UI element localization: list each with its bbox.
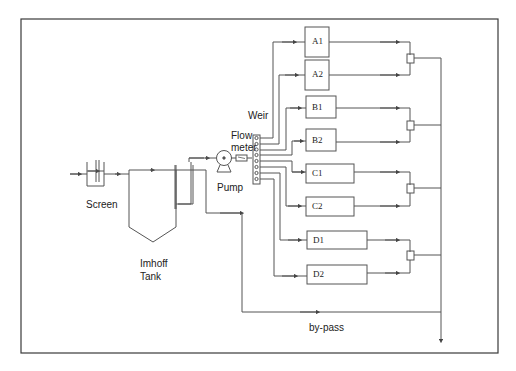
label-imhoff-1: Imhoff <box>140 258 168 270</box>
outlet-b2 <box>336 130 410 142</box>
unit-label-d1: D1 <box>313 235 324 245</box>
label-bypass: by-pass <box>309 322 344 334</box>
collector-a <box>407 54 414 63</box>
outlet-c1 <box>354 172 410 185</box>
outlet-b1 <box>336 108 410 121</box>
collector-c <box>407 184 414 193</box>
label-weir: Weir <box>248 110 268 122</box>
outlet-d2 <box>367 260 410 273</box>
outlet-a2 <box>329 63 410 75</box>
label-imhoff-2: Tank <box>140 271 161 283</box>
tank-outlet-pipe <box>176 162 191 204</box>
unit-label-a1: A1 <box>312 36 323 46</box>
collector-b <box>407 121 414 130</box>
imhoff-tank <box>129 170 176 242</box>
bypass-line <box>242 213 441 312</box>
unit-label-c2: C2 <box>312 201 323 211</box>
feed-line-a1 <box>260 42 305 138</box>
wastewater-treatment-schematic <box>0 0 516 371</box>
unit-label-a2: A2 <box>312 69 323 79</box>
outlet-a1 <box>329 42 410 55</box>
outlet-d1 <box>367 240 410 252</box>
unit-label-d2: D2 <box>313 269 324 279</box>
label-screen: Screen <box>86 199 118 211</box>
unit-label-b2: B2 <box>312 135 323 145</box>
unit-label-b1: B1 <box>312 102 323 112</box>
collector-d <box>407 251 414 260</box>
label-pump: Pump <box>217 182 243 194</box>
outlet-c2 <box>354 193 410 206</box>
label-flow-2: meter <box>231 142 257 154</box>
unit-label-c1: C1 <box>312 168 323 178</box>
label-flow-1: Flow <box>231 130 252 142</box>
feed-line-b2 <box>260 141 306 155</box>
pump-suction-line <box>189 158 204 162</box>
feed-line-d2 <box>260 179 307 276</box>
pump-base <box>217 165 231 172</box>
